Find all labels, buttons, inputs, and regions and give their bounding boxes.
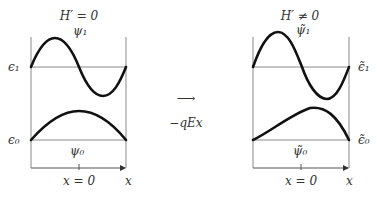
left-x-tick-label: x = 0	[63, 174, 95, 188]
left-x-axis-label: x	[125, 174, 132, 188]
transition-arrow-icon: ⟶	[177, 91, 196, 106]
left-psi1-label: ψ₁	[73, 24, 87, 38]
right-eps0-label: ϵ̃₀	[358, 133, 370, 147]
right-psi1-curve	[253, 32, 349, 99]
right-psi0-label: ψ̃₀	[293, 144, 307, 158]
left-panel: H′ = 0 ψ₁ ψ₀ ϵ₁ ϵ₀ x = 0 x	[8, 9, 132, 188]
right-x-tick-label: x = 0	[285, 174, 317, 188]
left-eps1-label: ϵ₁	[8, 60, 20, 74]
perturbation-label: −qEx	[169, 116, 202, 130]
left-title: H′ = 0	[59, 9, 99, 23]
left-eps0-label: ϵ₀	[8, 133, 20, 147]
right-title: H′ ≠ 0	[280, 9, 320, 23]
right-psi0-curve	[253, 108, 349, 140]
transition: ⟶ −qEx	[169, 91, 202, 130]
right-psi1-label: ψ̃₁	[296, 23, 310, 37]
perturbation-diagram: H′ = 0 ψ₁ ψ₀ ϵ₁ ϵ₀ x = 0 x ⟶ −qEx H′ ≠ 0	[0, 0, 377, 198]
right-panel: H′ ≠ 0 ψ̃₁ ψ̃₀ ϵ̃₁ ϵ̃₀ x = 0 x	[253, 9, 370, 188]
right-x-axis-label: x	[346, 174, 353, 188]
left-psi0-label: ψ₀	[70, 144, 84, 158]
right-eps1-label: ϵ̃₁	[358, 60, 370, 74]
left-psi0-curve	[31, 111, 126, 140]
